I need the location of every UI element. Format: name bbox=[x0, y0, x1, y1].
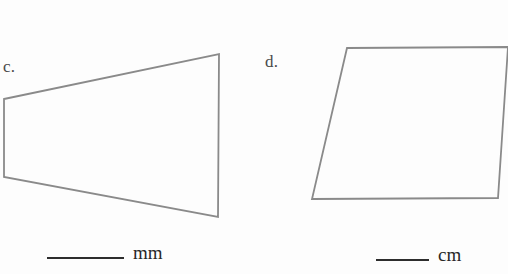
trapezoid-shape-c bbox=[4, 54, 219, 217]
problem-label-c: c. bbox=[3, 58, 15, 75]
answer-blank-d[interactable] bbox=[376, 259, 429, 261]
answer-slot-d[interactable]: cm bbox=[376, 245, 461, 264]
shapes-canvas bbox=[0, 0, 508, 274]
parallelogram-shape-d bbox=[312, 47, 508, 199]
problem-label-d: d. bbox=[265, 53, 278, 70]
geometry-worksheet: c. d. mm cm bbox=[0, 0, 508, 274]
unit-label-mm: mm bbox=[133, 243, 163, 262]
answer-slot-c[interactable]: mm bbox=[47, 243, 163, 262]
unit-label-cm: cm bbox=[438, 245, 461, 264]
answer-blank-c[interactable] bbox=[47, 257, 124, 259]
